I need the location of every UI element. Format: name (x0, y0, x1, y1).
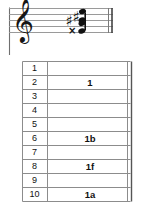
table-row-number: 3 (22, 92, 47, 101)
svg-text:×: × (68, 25, 76, 36)
chord-cluster: ♯ ♯ × (66, 8, 87, 36)
svg-text:♯: ♯ (73, 8, 80, 26)
table-row-number: 2 (22, 78, 47, 87)
accidental-sharp-upper: ♯ (73, 8, 80, 26)
table-row-number: 7 (22, 148, 47, 157)
table-row-value: 1 (47, 78, 133, 88)
page-root: 𝄞 ♯ ♯ × (0, 0, 146, 206)
table-row-number: 8 (22, 162, 47, 171)
table-row-value: 1a (47, 190, 133, 200)
accidental-double-sharp: × (68, 25, 76, 36)
table-row-number: 4 (22, 106, 47, 115)
table-row-number: 1 (22, 64, 47, 73)
data-table: 1 2 1 3 4 5 6 1b 7 8 1f 9 10 1a (22, 61, 135, 202)
table-row-number: 10 (22, 190, 47, 199)
table-row-number: 9 (22, 176, 47, 185)
table-row-number: 5 (22, 120, 47, 129)
table-row-value: 1b (47, 134, 133, 144)
music-notation-staff: 𝄞 ♯ ♯ × (0, 0, 146, 56)
table-row-number: 6 (22, 134, 47, 143)
table-row-value: 1f (47, 162, 133, 172)
svg-text:𝄞: 𝄞 (12, 0, 34, 44)
treble-clef-icon: 𝄞 (12, 0, 34, 44)
